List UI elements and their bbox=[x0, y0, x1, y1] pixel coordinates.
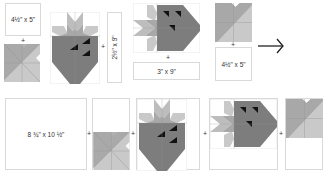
plus-sign: + bbox=[203, 130, 207, 137]
fabric-piece-d: 4½" x 5" bbox=[215, 47, 252, 81]
strawberry-column-unit bbox=[136, 98, 200, 170]
fabric-strip-c: 3" x 9" bbox=[133, 62, 200, 80]
plus-sign: + bbox=[131, 130, 135, 137]
fabric-strip-b: 2½" x 9" bbox=[107, 12, 122, 83]
strawberry-rotated-icon bbox=[210, 99, 277, 149]
fabric-piece-a: 4½" x 5" bbox=[5, 3, 41, 36]
dimension-label: 3" x 9" bbox=[157, 68, 176, 75]
leaf-block-icon bbox=[4, 44, 40, 82]
dimension-label: 4½" x 5" bbox=[221, 61, 245, 68]
arrow-right-icon bbox=[257, 38, 285, 54]
dimension-label: 4½" x 5" bbox=[11, 16, 35, 23]
leaf-block-2 bbox=[215, 3, 252, 42]
strawberry-icon bbox=[50, 12, 100, 84]
leaf-block bbox=[4, 44, 40, 82]
strawberry-block-sideways bbox=[133, 3, 200, 53]
leaf-block-icon bbox=[215, 3, 252, 42]
plus-sign: + bbox=[101, 43, 105, 50]
strawberry-icon bbox=[137, 99, 187, 171]
plus-sign: + bbox=[166, 54, 170, 61]
leaf-block-icon bbox=[93, 132, 130, 170]
leaf-column-unit-2 bbox=[285, 98, 323, 170]
plus-sign: + bbox=[87, 130, 91, 137]
leaf-column-unit bbox=[92, 98, 130, 170]
strawberry-rotated-icon bbox=[133, 3, 200, 53]
plus-sign: + bbox=[279, 130, 283, 137]
strawberry-block-upright bbox=[50, 12, 100, 84]
fabric-piece-e: 8 ¾" x 10 ½" bbox=[5, 98, 87, 170]
strawberry-sideways-unit bbox=[209, 98, 278, 170]
dimension-label: 2½" x 9" bbox=[111, 35, 118, 59]
leaf-block-icon bbox=[286, 99, 323, 138]
dimension-label: 8 ¾" x 10 ½" bbox=[28, 131, 65, 138]
plus-sign: + bbox=[21, 37, 25, 44]
